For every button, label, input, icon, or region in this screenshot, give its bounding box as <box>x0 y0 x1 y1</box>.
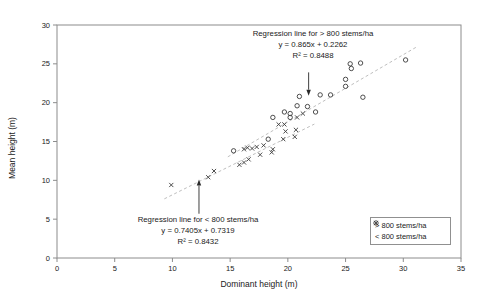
annotation-equation: y = 0.865x + 0.2262 <box>225 39 401 50</box>
data-point-circle <box>358 61 362 65</box>
x-marker-icon <box>371 218 383 228</box>
x-tick-label: 10 <box>168 264 176 273</box>
data-point-x <box>258 153 262 157</box>
data-point-x <box>212 169 216 173</box>
annotation-arrowhead <box>306 90 310 96</box>
data-point-circle <box>343 84 347 88</box>
regression-line <box>228 47 417 157</box>
data-point-x <box>169 183 173 187</box>
annotation-r2: R² = 0.8432 <box>110 236 286 247</box>
data-point-circle <box>361 95 365 99</box>
data-point-x <box>255 145 259 149</box>
data-point-x <box>247 157 251 161</box>
data-point-x <box>262 143 266 147</box>
x-tick-label: 5 <box>113 264 117 273</box>
x-tick-label: 30 <box>399 264 407 273</box>
annotation-regression-gt800: Regression line for > 800 stems/ha y = 0… <box>225 28 401 61</box>
legend-label: < 800 stems/ha <box>375 232 427 241</box>
y-tick-label: 30 <box>42 21 50 30</box>
data-point-x <box>293 135 297 139</box>
y-tick-label: 25 <box>42 59 50 68</box>
x-tick-label: 35 <box>457 264 465 273</box>
data-point-circle <box>297 94 301 98</box>
data-point-circle <box>343 77 347 81</box>
annotation-equation: y = 0.7405x + 0.7319 <box>110 225 286 236</box>
data-point-circle <box>348 62 352 66</box>
legend-item: > 800 stems/ha <box>375 220 450 231</box>
y-tick-label: 15 <box>42 137 50 146</box>
annotation-title: Regression line for < 800 stems/ha <box>110 214 286 225</box>
data-point-circle <box>271 115 275 119</box>
data-point-circle <box>318 93 322 97</box>
data-point-circle <box>403 58 407 62</box>
data-point-x <box>250 146 254 150</box>
legend: > 800 stems/ha< 800 stems/ha <box>370 217 451 245</box>
data-point-circle <box>349 66 353 70</box>
data-point-x <box>237 163 241 167</box>
y-axis-title: Mean height (m) <box>7 117 17 179</box>
data-point-circle <box>282 110 286 114</box>
data-point-x <box>242 160 246 164</box>
x-tick-label: 0 <box>55 264 59 273</box>
data-point-x <box>277 122 281 126</box>
x-tick-label: 25 <box>341 264 349 273</box>
data-point-x <box>294 128 298 132</box>
annotation-title: Regression line for > 800 stems/ha <box>225 28 401 39</box>
x-tick-label: 20 <box>284 264 292 273</box>
scatter-chart: 05101520253035051015202530 Regression li… <box>0 0 486 306</box>
data-point-circle <box>313 110 317 114</box>
data-point-circle <box>328 93 332 97</box>
y-tick-label: 5 <box>46 215 50 224</box>
data-point-x <box>283 129 287 133</box>
annotation-regression-lt800: Regression line for < 800 stems/ha y = 0… <box>110 214 286 247</box>
y-tick-label: 10 <box>42 176 50 185</box>
data-point-circle <box>231 149 235 153</box>
data-point-circle <box>295 104 299 108</box>
regression-line <box>164 124 314 199</box>
y-tick-label: 0 <box>46 254 50 263</box>
data-point-x <box>206 175 210 179</box>
x-tick-label: 15 <box>226 264 234 273</box>
y-tick-label: 20 <box>42 98 50 107</box>
x-axis-title: Dominant height (m) <box>57 279 461 289</box>
data-point-circle <box>305 104 309 108</box>
data-point-circle <box>266 137 270 141</box>
annotation-r2: R² = 0.8488 <box>225 50 401 61</box>
data-point-x <box>282 122 286 126</box>
legend-item: < 800 stems/ha <box>375 231 450 242</box>
